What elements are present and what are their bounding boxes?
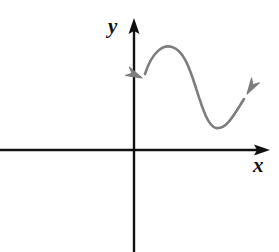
curve-group: [126, 46, 260, 128]
y-axis-group: [129, 18, 140, 252]
y-axis-label: y: [108, 16, 117, 37]
coordinate-plane-svg: [0, 0, 279, 252]
graph-figure: y x: [0, 0, 279, 252]
x-axis-label: x: [253, 155, 264, 176]
curve-right-arrowhead-icon: [247, 78, 259, 94]
s-curve: [145, 46, 244, 128]
